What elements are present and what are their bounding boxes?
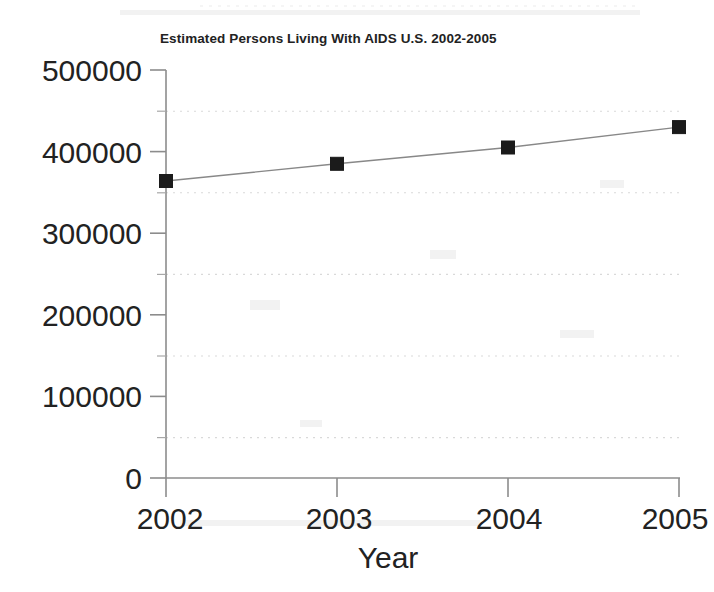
y-tick-label: 100000 xyxy=(42,380,142,413)
data-point-2005[interactable] xyxy=(673,121,686,134)
data-point-2004[interactable] xyxy=(502,141,515,154)
x-tick-label: 2004 xyxy=(476,502,543,535)
data-point-2003[interactable] xyxy=(331,157,344,170)
x-tick-label: 2003 xyxy=(306,502,373,535)
y-tick-label: 500000 xyxy=(42,54,142,87)
y-tick-label: 200000 xyxy=(42,299,142,332)
chart-title: Estimated Persons Living With AIDS U.S. … xyxy=(160,31,497,46)
y-tick-label: 400000 xyxy=(42,136,142,169)
data-point-2002[interactable] xyxy=(160,175,173,188)
x-tick-label: 2005 xyxy=(642,502,709,535)
line-chart: Estimated Persons Living With AIDS U.S. … xyxy=(0,0,714,592)
x-tick-label: 2002 xyxy=(137,502,204,535)
y-tick-label: 300000 xyxy=(42,217,142,250)
chart-container: Estimated Persons Living With AIDS U.S. … xyxy=(0,0,714,592)
y-tick-label: 0 xyxy=(125,462,142,495)
x-axis-title: Year xyxy=(358,541,419,574)
